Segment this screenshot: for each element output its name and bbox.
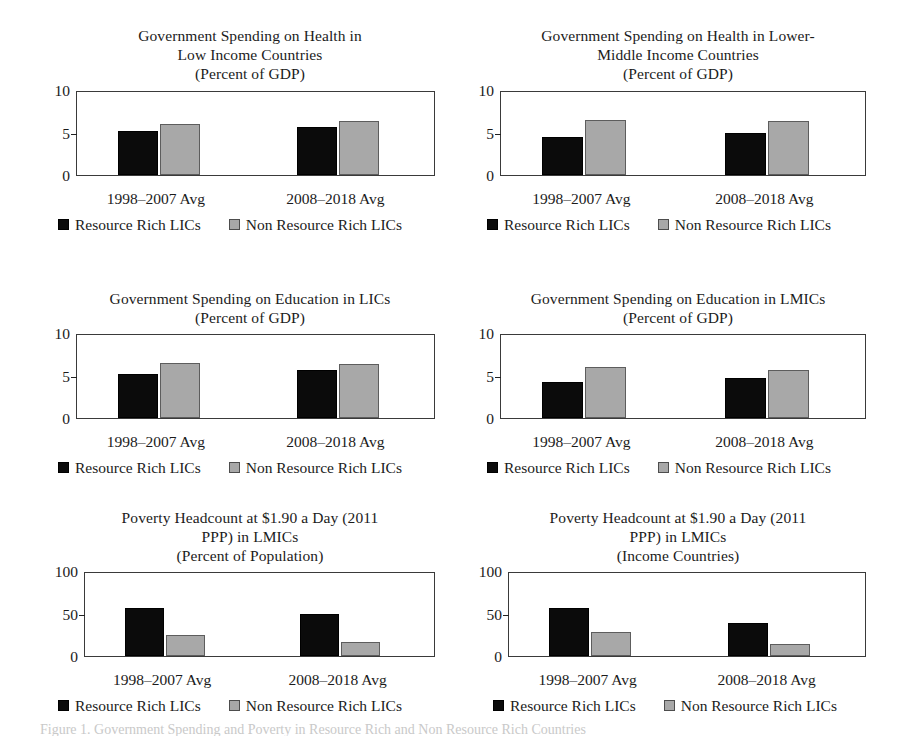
chart-panel-education-lic: Government Spending on Education in LICs…	[55, 289, 445, 327]
legend-entry-non-resource-rich: Non Resource Rich LICs	[229, 459, 402, 476]
legend-entry-non-resource-rich: Non Resource Rich LICs	[658, 216, 831, 233]
plot-area	[500, 91, 866, 176]
legend-entry-resource-rich: Resource Rich LICs	[487, 216, 630, 233]
bar-education-lmic-0-0	[542, 382, 583, 418]
legend-entry-resource-rich: Resource Rich LICs	[487, 459, 630, 476]
filled-square-gray-icon	[658, 462, 669, 473]
bar-education-lmic-0-1	[585, 367, 626, 418]
y-axis-tick-label: 100	[42, 564, 78, 580]
y-axis-tickmark	[495, 377, 501, 378]
y-axis-tick-label: 0	[466, 649, 502, 665]
x-axis-tick-label: 2008–2018 Avg	[717, 671, 815, 688]
y-axis-tickmark	[495, 134, 501, 135]
chart-subtitle: (Percent of GDP)	[55, 64, 445, 83]
bar-education-lic-0-1	[160, 363, 200, 418]
plot-area	[84, 572, 435, 657]
y-axis-tickmark	[71, 377, 77, 378]
legend-label-non-resource-rich: Non Resource Rich LICs	[246, 216, 402, 233]
x-axis-tick-label: 2008–2018 Avg	[286, 433, 384, 450]
chart-legend: Resource Rich LICsNon Resource Rich LICs	[487, 459, 831, 476]
x-axis-tick-label: 1998–2007 Avg	[532, 433, 630, 450]
y-axis-tick-label: 5	[458, 126, 494, 142]
x-axis-tick-label: 2008–2018 Avg	[288, 671, 386, 688]
chart-panel-education-lmic: Government Spending on Education in LMIC…	[478, 289, 878, 327]
y-axis-tick-label: 0	[34, 168, 70, 184]
bar-health-lic-0-0	[118, 131, 158, 175]
y-axis-tick-label: 0	[458, 168, 494, 184]
legend-label-non-resource-rich: Non Resource Rich LICs	[246, 697, 402, 714]
bar-poverty-population-0-1	[166, 635, 205, 656]
filled-square-black-icon	[487, 462, 498, 473]
plot-area	[500, 334, 866, 419]
y-axis-tickmark	[79, 615, 85, 616]
y-axis-tick-label: 0	[458, 411, 494, 427]
legend-label-non-resource-rich: Non Resource Rich LICs	[675, 459, 831, 476]
y-axis-tick-label: 100	[466, 564, 502, 580]
y-axis-tick-label: 10	[458, 83, 494, 99]
chart-legend: Resource Rich LICsNon Resource Rich LICs	[58, 216, 402, 233]
bar-poverty-population-1-1	[341, 642, 380, 656]
chart-subtitle: (Percent of Population)	[55, 546, 445, 565]
chart-title: Government Spending on Health in Low Inc…	[55, 26, 445, 64]
legend-entry-resource-rich: Resource Rich LICs	[493, 697, 636, 714]
legend-label-non-resource-rich: Non Resource Rich LICs	[681, 697, 837, 714]
filled-square-black-icon	[58, 462, 69, 473]
bar-poverty-income-1-1	[770, 644, 810, 656]
y-axis-tick-label: 5	[34, 126, 70, 142]
legend-label-resource-rich: Resource Rich LICs	[510, 697, 636, 714]
x-axis-tick-label: 1998–2007 Avg	[538, 671, 636, 688]
y-axis-tick-label: 0	[34, 411, 70, 427]
bar-education-lic-0-0	[118, 374, 158, 418]
chart-subtitle: (Percent of GDP)	[55, 308, 445, 327]
chart-title: Government Spending on Education in LMIC…	[478, 289, 878, 308]
y-axis-tick-label: 10	[458, 326, 494, 342]
bar-health-lic-1-1	[339, 121, 379, 175]
chart-panel-poverty-income: Poverty Headcount at $1.90 a Day (2011 P…	[478, 508, 878, 565]
filled-square-black-icon	[493, 700, 504, 711]
y-axis-tickmark	[503, 615, 509, 616]
y-axis-tick-label: 10	[34, 83, 70, 99]
chart-legend: Resource Rich LICsNon Resource Rich LICs	[58, 697, 402, 714]
bar-education-lmic-1-1	[768, 370, 809, 418]
legend-label-resource-rich: Resource Rich LICs	[75, 697, 201, 714]
chart-title: Government Spending on Education in LICs	[55, 289, 445, 308]
chart-title: Poverty Headcount at $1.90 a Day (2011 P…	[478, 508, 878, 546]
x-axis-tick-label: 1998–2007 Avg	[107, 190, 205, 207]
x-axis-tick-label: 2008–2018 Avg	[286, 190, 384, 207]
bar-health-lmic-1-0	[725, 133, 766, 176]
legend-entry-non-resource-rich: Non Resource Rich LICs	[664, 697, 837, 714]
y-axis-tick-label: 5	[458, 369, 494, 385]
bar-education-lmic-1-0	[725, 378, 766, 418]
bar-poverty-income-0-0	[549, 608, 589, 656]
x-axis-tick-label: 1998–2007 Avg	[532, 190, 630, 207]
chart-panel-poverty-population: Poverty Headcount at $1.90 a Day (2011 P…	[55, 508, 445, 565]
x-axis-tick-label: 2008–2018 Avg	[715, 433, 813, 450]
y-axis-tick-label: 50	[466, 607, 502, 623]
y-axis-tick-label: 10	[34, 326, 70, 342]
chart-subtitle: (Percent of GDP)	[478, 64, 878, 83]
legend-entry-non-resource-rich: Non Resource Rich LICs	[229, 216, 402, 233]
bar-health-lmic-0-1	[585, 120, 626, 175]
plot-area	[76, 334, 435, 419]
chart-subtitle: (Income Countries)	[478, 546, 878, 565]
bar-poverty-income-1-0	[728, 623, 768, 656]
chart-title: Poverty Headcount at $1.90 a Day (2011 P…	[55, 508, 445, 546]
x-axis-tick-label: 1998–2007 Avg	[107, 433, 205, 450]
filled-square-black-icon	[487, 219, 498, 230]
bar-poverty-population-1-0	[300, 614, 339, 656]
bar-health-lmic-1-1	[768, 121, 809, 175]
x-axis-tick-label: 1998–2007 Avg	[113, 671, 211, 688]
filled-square-gray-icon	[229, 462, 240, 473]
bar-health-lic-0-1	[160, 124, 200, 175]
filled-square-black-icon	[58, 219, 69, 230]
plot-area	[508, 572, 866, 657]
filled-square-gray-icon	[229, 219, 240, 230]
y-axis-tick-label: 5	[34, 369, 70, 385]
x-axis-tick-label: 2008–2018 Avg	[715, 190, 813, 207]
chart-legend: Resource Rich LICsNon Resource Rich LICs	[493, 697, 837, 714]
legend-entry-non-resource-rich: Non Resource Rich LICs	[658, 459, 831, 476]
legend-entry-resource-rich: Resource Rich LICs	[58, 216, 201, 233]
filled-square-black-icon	[58, 700, 69, 711]
figure-panel-grid: Government Spending on Health in Low Inc…	[0, 0, 910, 736]
legend-label-non-resource-rich: Non Resource Rich LICs	[675, 216, 831, 233]
